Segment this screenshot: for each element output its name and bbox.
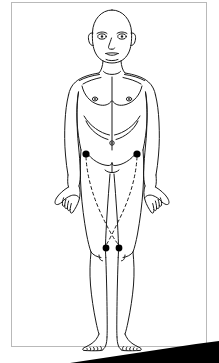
right-knee-point xyxy=(116,245,123,252)
pelvis-detail xyxy=(86,152,137,173)
anatomical-figure-drawing xyxy=(0,0,219,363)
left-leg xyxy=(80,150,110,337)
left-knee-point xyxy=(103,245,110,252)
chest-detail xyxy=(82,77,142,150)
scanned-page: Anterior full-body male figure with mark… xyxy=(0,0,219,363)
right-arm xyxy=(144,92,160,187)
left-hip-to-right-knee-pathway xyxy=(86,157,119,245)
right-inguinal-point xyxy=(133,150,140,157)
right-hand xyxy=(144,186,169,213)
right-leg xyxy=(114,150,144,337)
left-hand xyxy=(55,186,80,213)
right-foot xyxy=(117,334,141,351)
left-foot xyxy=(83,334,107,351)
left-inguinal-point xyxy=(82,150,89,157)
left-arm xyxy=(65,92,81,187)
head-outline xyxy=(88,10,135,63)
